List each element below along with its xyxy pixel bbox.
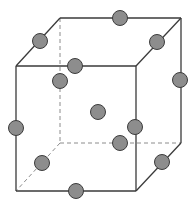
atom-bottom-left-depth-edge [35, 156, 50, 171]
atom-front-top-edge [68, 59, 83, 74]
cube-lattice-figure [0, 0, 191, 209]
atom-back-top-edge [113, 11, 128, 26]
atom-bottom-right-depth-edge [155, 155, 170, 170]
atom-top-left-depth-edge [33, 34, 48, 49]
atom-top-right-depth-edge [150, 35, 165, 50]
atom-front-left-vertical-edge [9, 121, 24, 136]
atom-front-right-vertical-edge [128, 120, 143, 135]
atom-front-bottom-edge [69, 184, 84, 199]
atom-back-bottom-edge [113, 136, 128, 151]
cube-diagram [0, 0, 191, 209]
atom-back-left-vertical-edge [53, 74, 68, 89]
atom-body-center [91, 105, 106, 120]
atom-back-right-vertical-edge [173, 73, 188, 88]
